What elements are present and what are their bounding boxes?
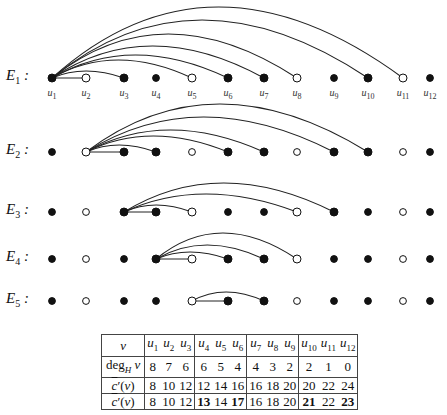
filled-vertex-u9	[330, 208, 338, 216]
table-cell: 22	[319, 378, 338, 394]
header-cell: u12	[338, 335, 358, 357]
open-vertex-u11	[400, 256, 407, 263]
vertex-label-u4: u4	[152, 87, 161, 101]
header-cell: u3	[177, 335, 195, 357]
vertex-label-u8: u8	[293, 87, 302, 101]
open-vertex-u5	[188, 297, 196, 305]
filled-vertex-u3	[120, 74, 128, 82]
header-cell: u6	[229, 335, 247, 357]
filled-vertex-u12	[427, 209, 434, 216]
degree-table: vu1u2u3u4u5u6u7u8u9u10u11u12degH v876654…	[101, 334, 358, 410]
filled-vertex-u7	[260, 255, 268, 263]
table-cell: 12	[177, 378, 195, 394]
open-vertex-u8	[293, 255, 301, 263]
filled-vertex-u6	[224, 297, 232, 305]
filled-vertex-u1	[49, 149, 56, 156]
open-vertex-u11	[400, 298, 407, 305]
header-cell: u4	[195, 335, 213, 357]
filled-vertex-u10	[364, 148, 372, 156]
filled-vertex-u4	[152, 208, 160, 216]
filled-vertex-u3	[120, 208, 128, 216]
vertex-label-u3: u3	[120, 87, 129, 101]
row-header: c′(v)	[102, 394, 145, 410]
filled-vertex-u3	[121, 298, 128, 305]
filled-vertex-u12	[427, 149, 434, 156]
filled-vertex-u9	[331, 298, 338, 305]
header-cell: u8	[264, 335, 281, 357]
table-cell: 6	[195, 356, 213, 378]
header-cell: u5	[212, 335, 229, 357]
open-vertex-u2	[83, 209, 90, 216]
open-vertex-u2	[83, 256, 90, 263]
vertex-label-u5: u5	[188, 87, 197, 101]
table-cell: 16	[229, 378, 247, 394]
filled-vertex-u1	[49, 256, 56, 263]
vertex-label-u7: u7	[260, 87, 269, 101]
open-vertex-u5	[188, 255, 196, 263]
filled-vertex-u6	[224, 74, 232, 82]
table-cell: 1	[319, 356, 338, 378]
table-cell: 0	[338, 356, 358, 378]
table-cell: 20	[281, 394, 299, 410]
filled-vertex-u3	[120, 148, 128, 156]
filled-vertex-u10	[365, 256, 372, 263]
table-cell: 5	[212, 356, 229, 378]
table-cell: 16	[247, 378, 265, 394]
vertex-label-u12: u12	[424, 87, 437, 101]
open-vertex-u5	[189, 149, 196, 156]
open-vertex-u2	[83, 298, 90, 305]
table-cell: 12	[177, 394, 195, 410]
open-vertex-u8	[294, 149, 301, 156]
filled-vertex-u9	[331, 75, 338, 82]
filled-vertex-u3	[121, 256, 128, 263]
open-vertex-u11	[400, 149, 407, 156]
edge-arc	[124, 194, 297, 212]
table-cell: 4	[229, 356, 247, 378]
header-cell: u9	[281, 335, 299, 357]
filled-vertex-u7	[260, 297, 268, 305]
filled-vertex-u4	[152, 148, 160, 156]
filled-vertex-u1	[48, 74, 56, 82]
table-cell: 20	[299, 378, 319, 394]
table-cell: 12	[195, 378, 213, 394]
filled-vertex-u7	[261, 209, 268, 216]
hypergraph-diagram	[0, 0, 447, 330]
table-cell: 14	[212, 378, 229, 394]
open-vertex-u8	[293, 208, 301, 216]
row-label-e5: E5 :	[6, 290, 29, 309]
table-cell: 8	[145, 356, 161, 378]
header-cell: u11	[319, 335, 338, 357]
row-label-e2: E2 :	[6, 141, 29, 160]
header-cell: u10	[299, 335, 319, 357]
table-cell: 24	[338, 378, 358, 394]
table-cell: 21	[299, 394, 319, 410]
table-cell: 20	[281, 378, 299, 394]
table-cell: 3	[264, 356, 281, 378]
filled-vertex-u7	[260, 148, 268, 156]
table-cell: 18	[264, 378, 281, 394]
table-cell: 10	[160, 378, 177, 394]
table-cell: 18	[264, 394, 281, 410]
row-label-e4: E4 :	[6, 248, 29, 267]
edge-arc	[86, 104, 368, 152]
filled-vertex-u7	[260, 74, 268, 82]
filled-vertex-u9	[330, 148, 338, 156]
header-cell: v	[102, 335, 145, 357]
table-cell: 22	[319, 394, 338, 410]
row-label-e3: E3 :	[6, 201, 29, 220]
table-cell: 7	[160, 356, 177, 378]
open-vertex-u8	[294, 298, 301, 305]
table-cell: 23	[338, 394, 358, 410]
table-cell: 10	[160, 394, 177, 410]
filled-vertex-u10	[365, 209, 372, 216]
filled-vertex-u9	[331, 256, 338, 263]
vertex-label-u2: u2	[82, 87, 91, 101]
header-cell: u1	[145, 335, 161, 357]
table-cell: 13	[195, 394, 213, 410]
filled-vertex-u4	[153, 75, 160, 82]
filled-vertex-u6	[224, 148, 232, 156]
filled-vertex-u12	[427, 298, 434, 305]
edge-arc	[52, 46, 264, 78]
vertex-label-u6: u6	[224, 87, 233, 101]
row-header: c′(v)	[102, 378, 145, 394]
